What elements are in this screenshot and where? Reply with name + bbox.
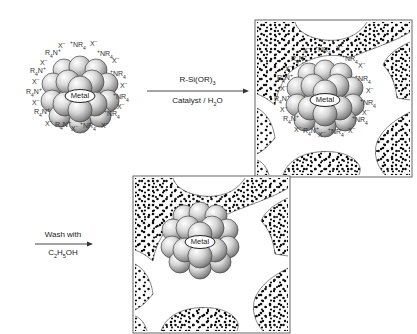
anion-label: X− (336, 43, 344, 52)
cation-label: +NR4 (360, 97, 376, 109)
anion-label: X− (71, 123, 79, 132)
diagram-canvas (0, 0, 417, 334)
panel-encapsulated-washed (133, 176, 290, 333)
cation-label: +NR4 (113, 91, 129, 103)
ion-shell-2: X− +NR4 X− R4N+ +NR4 X− X− R4N+ +NR4 X− … (0, 0, 417, 334)
anion-label: X− (32, 76, 40, 85)
metal-label-1: Metal (66, 91, 94, 100)
cation-label-left: R4N+ (303, 125, 319, 137)
cation-label: +NR4 (110, 68, 126, 80)
metal-label-2: Metal (311, 95, 339, 104)
anion-label: X− (285, 63, 293, 72)
cation-label: +NR4 (328, 126, 344, 138)
anion-label: X− (280, 83, 288, 92)
anion-label: X− (120, 80, 128, 89)
cation-label-left: R4N+ (55, 119, 71, 131)
reaction-arrow-2: Wash with C2H5OH (33, 226, 93, 266)
step2-reagent-bottom: C2H5OH (33, 248, 93, 259)
cation-label: +NR4 (342, 53, 358, 65)
anion-label: X− (90, 38, 98, 47)
cation-label: +NR4 (352, 114, 368, 126)
metal-label-3: Metal (186, 237, 214, 246)
anion-label: X− (32, 97, 40, 106)
cation-label: +NR4 (355, 73, 371, 85)
anion-label: X− (58, 40, 66, 49)
cation-label: +NR4 (315, 44, 331, 56)
anion-label: X− (280, 104, 288, 113)
cation-label-left: R4N+ (283, 113, 299, 125)
anion-label: X− (112, 55, 120, 64)
anion-label: X− (117, 101, 125, 110)
cation-label-left: R4N+ (291, 53, 307, 65)
cation-label: +NR4 (97, 48, 113, 60)
step1-reagent-bottom: Catalyst / H2O (145, 96, 250, 107)
cation-label: +NR4 (70, 39, 86, 51)
cation-label-left: R4N+ (30, 65, 46, 77)
step2-reagent-top: Wash with (33, 230, 93, 239)
anion-label: X− (303, 45, 311, 54)
cation-label-left: R4N+ (34, 106, 50, 118)
cation-label: +NR4 (104, 108, 120, 120)
anion-label: X− (362, 107, 370, 116)
cation-label-left: R4N+ (26, 86, 42, 98)
ion-shell-1: X− +NR4 X− R4N+ +NR4 X− X− R4N+ +NR4 X− … (0, 0, 417, 334)
anion-label: X− (318, 129, 326, 138)
cation-label-left: R4N+ (45, 47, 61, 59)
cation-label-left: R4N+ (274, 93, 290, 105)
anion-label: X− (294, 124, 302, 133)
step1-reagent-top: R-Si(OR)3 (145, 75, 250, 86)
anion-label: X− (101, 120, 109, 129)
anion-label: X− (40, 57, 48, 66)
silica-matrix-icon (133, 176, 290, 333)
anion-label: X− (45, 118, 53, 127)
anion-label: X− (358, 60, 366, 69)
cation-label: +NR4 (80, 120, 96, 132)
anion-label: X− (348, 125, 356, 134)
cation-label-left: R4N+ (277, 72, 293, 84)
reaction-arrow-1: R-Si(OR)3 Catalyst / H2O (145, 72, 250, 112)
anion-label: X− (366, 85, 374, 94)
